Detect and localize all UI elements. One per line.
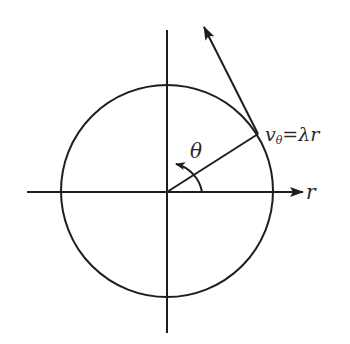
radius-line <box>167 134 258 192</box>
r-axis-label: r <box>306 180 317 204</box>
velocity-rhs: =λr <box>282 123 321 145</box>
velocity-label: vθ=λr <box>265 123 321 147</box>
velocity-symbol: v <box>265 123 276 145</box>
rotation-diagram: θ r vθ=λr <box>0 0 350 344</box>
velocity-arrow <box>204 27 258 134</box>
theta-label: θ <box>190 139 202 163</box>
